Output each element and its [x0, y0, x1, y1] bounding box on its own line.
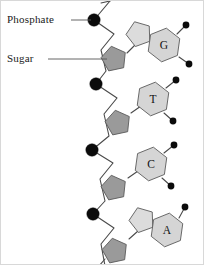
phosphate-circle-2: [90, 78, 102, 90]
label-phosphate: Phosphate: [7, 13, 54, 25]
base-thymine: T: [137, 82, 169, 116]
base-cytosine: C: [135, 147, 167, 181]
phosphate-group: [86, 14, 102, 220]
glycosidic-bond-cytosine: [128, 171, 138, 178]
dna-structure-figure: G T C A: [0, 0, 204, 265]
base-adenine: A: [129, 208, 183, 247]
substituent-dot-a-1: [182, 204, 189, 211]
substituent-dot-c-1: [171, 142, 178, 149]
sugar-pentagon-3: [101, 175, 125, 200]
annotation-sugar: Sugar: [7, 52, 107, 64]
annotation-phosphate: Phosphate: [7, 13, 91, 25]
sugar-pentagon-4: [102, 238, 126, 263]
phosphate-circle-3: [86, 144, 98, 156]
glycosidic-bond-guanine: [127, 45, 135, 53]
substituent-dot-g-1: [183, 22, 190, 29]
substituent-dot-c-2: [168, 183, 175, 190]
base-letter-cytosine: C: [147, 158, 155, 170]
sugar-pentagon-2: [105, 110, 129, 135]
substituent-dot-g-2: [186, 61, 193, 68]
sugar-group: [101, 46, 129, 263]
substituent-dot-t-1: [173, 77, 180, 84]
base-letter-adenine: A: [163, 224, 172, 236]
glycosidic-bond-adenine: [129, 231, 138, 239]
substituent-dot-t-2: [170, 118, 177, 125]
base-letter-guanine: G: [160, 39, 168, 51]
adenine-five-ring: [129, 208, 153, 233]
base-letter-thymine: T: [149, 93, 156, 105]
guanine-five-ring: [126, 22, 150, 47]
dna-diagram-canvas: G T C A: [1, 1, 204, 265]
phosphate-circle-4: [87, 208, 99, 220]
label-sugar: Sugar: [7, 52, 34, 64]
base-guanine: G: [126, 22, 180, 62]
